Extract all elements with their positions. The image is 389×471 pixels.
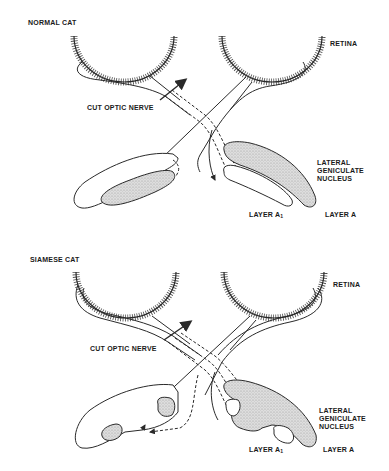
cut-arrow-icon-2 <box>164 322 190 340</box>
layer-a1-text-2: LAYER A <box>249 446 280 453</box>
layer-a1-label-2: LAYER A1 <box>249 446 283 455</box>
layer-a1-subscript: 1 <box>280 213 283 219</box>
lgn-label-2-line2: GENICULATE <box>319 415 366 423</box>
right-retina-icon <box>222 36 322 82</box>
diagram-canvas <box>0 0 389 471</box>
left-retina-icon-2 <box>76 272 176 318</box>
lgn-label-2-line1: LATERAL <box>319 407 353 415</box>
cut-optic-nerve-label: CUT OPTIC NERVE <box>87 104 154 112</box>
left-retina-icon <box>74 36 174 82</box>
layer-a1-subscript-2: 1 <box>280 448 283 454</box>
panel-title-siamese-cat: SIAMESE CAT <box>30 256 80 264</box>
right-lgn-siamese <box>224 380 317 447</box>
right-lgn <box>224 142 316 207</box>
layer-a-label-2: LAYER A <box>323 446 354 454</box>
cut-optic-nerve-label-2: CUT OPTIC NERVE <box>90 345 157 353</box>
retina-label: RETINA <box>330 40 357 48</box>
retina-label-2: RETINA <box>333 281 360 289</box>
siamese-cat-panel <box>75 272 324 448</box>
left-lgn-siamese <box>75 384 178 448</box>
lgn-label-line1: LATERAL <box>317 159 351 167</box>
lgn-label-2-line3: NUCLEUS <box>319 423 354 431</box>
left-lgn-patch-1 <box>158 397 175 416</box>
right-retina-icon-2 <box>224 272 324 318</box>
right-lgn-patch-a1-1 <box>226 399 240 416</box>
layer-a1-text: LAYER A <box>249 211 280 218</box>
panel-title-normal-cat: NORMAL CAT <box>28 19 76 27</box>
left-lgn <box>74 153 179 208</box>
layer-a1-label: LAYER A1 <box>249 211 283 220</box>
normal-cat-panel <box>74 36 322 208</box>
lgn-label-line3: NUCLEUS <box>317 175 352 183</box>
lgn-label-line2: GENICULATE <box>317 167 364 175</box>
layer-a-label: LAYER A <box>325 211 356 219</box>
